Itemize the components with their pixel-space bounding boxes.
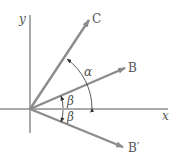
beta-lower-label: β	[67, 111, 74, 123]
vector-b-prime-label: B′	[128, 142, 140, 154]
alpha-label: α	[84, 66, 92, 78]
beta-arc-upper	[61, 96, 63, 108]
vector-b-label: B	[128, 62, 137, 74]
y-axis-label: y	[19, 13, 26, 25]
beta-upper-label: β	[67, 95, 74, 107]
vector-c-label: C	[92, 13, 101, 25]
x-axis-label: x	[162, 110, 169, 122]
vector-diagram	[0, 0, 182, 166]
beta-arc-lower	[61, 110, 63, 122]
vector-b-prime	[30, 109, 123, 147]
